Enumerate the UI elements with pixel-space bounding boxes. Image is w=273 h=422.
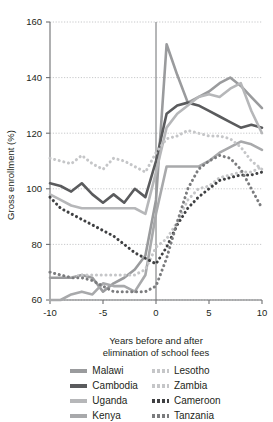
- legend-swatch-zambia: [152, 384, 169, 388]
- legend-label: Malawi: [92, 365, 123, 377]
- x-tick-label: -10: [43, 307, 57, 318]
- legend-item-zambia: Zambia: [152, 379, 221, 392]
- y-tick-label: 60: [31, 294, 42, 305]
- legend-item-malawi: Malawi: [70, 364, 138, 377]
- x-tick-label: 5: [206, 307, 211, 318]
- legend-swatch-cameroon: [152, 399, 169, 403]
- legend-swatch-tanzania: [152, 414, 169, 418]
- y-tick-label: 100: [26, 183, 42, 194]
- legend-item-cameroon: Cameroon: [152, 394, 221, 407]
- y-tick-label: 80: [31, 239, 42, 250]
- x-axis-title-line-2: elimination of school fees: [103, 347, 210, 358]
- chart-legend: MalawiCambodiaUgandaKenya LesothoZambiaC…: [0, 364, 273, 420]
- y-axis-tick-labels: 6080100120140160: [26, 16, 42, 305]
- legend-label: Kenya: [92, 410, 120, 422]
- legend-column-right: LesothoZambiaCameroonTanzania: [152, 364, 221, 422]
- legend-label: Cameroon: [174, 395, 221, 407]
- y-tick-label: 160: [26, 16, 42, 27]
- legend-label: Tanzania: [174, 410, 214, 422]
- legend-swatch-uganda: [70, 399, 87, 403]
- legend-swatch-malawi: [70, 369, 87, 373]
- x-tick-label: 10: [257, 307, 268, 318]
- y-tick-label: 140: [26, 72, 42, 83]
- x-axis-tick-labels: -10-50510: [43, 307, 267, 318]
- y-tick-label: 120: [26, 128, 42, 139]
- legend-item-lesotho: Lesotho: [152, 364, 221, 377]
- legend-label: Lesotho: [174, 365, 210, 377]
- x-axis-title-line-1: Years before and after: [109, 335, 203, 346]
- legend-item-kenya: Kenya: [70, 409, 138, 422]
- x-tick-label: -5: [99, 307, 107, 318]
- legend-label: Cambodia: [92, 380, 138, 392]
- legend-item-cambodia: Cambodia: [70, 379, 138, 392]
- legend-label: Zambia: [174, 380, 207, 392]
- legend-label: Uganda: [92, 395, 127, 407]
- legend-item-uganda: Uganda: [70, 394, 138, 407]
- legend-swatch-lesotho: [152, 369, 169, 373]
- legend-column-left: MalawiCambodiaUgandaKenya: [70, 364, 138, 422]
- legend-item-tanzania: Tanzania: [152, 409, 221, 422]
- line-chart-plot: 6080100120140160 -10-50510 Gross enrollm…: [0, 0, 273, 362]
- legend-swatch-kenya: [70, 414, 87, 418]
- legend-swatch-cambodia: [70, 384, 87, 388]
- x-tick-label: 0: [153, 307, 158, 318]
- y-axis-title: Gross enrollment (%): [5, 130, 16, 220]
